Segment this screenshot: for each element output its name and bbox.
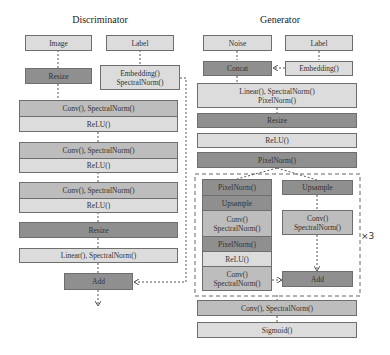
- d-linear-label: Linear(), SpectralNorm(): [61, 251, 136, 260]
- g-skip-upsample-node: Upsample: [282, 180, 353, 195]
- d-relu-1: ReLU(): [20, 116, 177, 131]
- g-res-conv1: Conv() SpectralNorm(): [203, 210, 271, 236]
- d-conv-1: Conv(), SpectralNorm(): [20, 101, 177, 116]
- g-sigmoid-node: Sigmoid(): [197, 322, 357, 338]
- g-res-conv1-line2: SpectralNorm(): [213, 224, 260, 233]
- g-label-label: Label: [310, 39, 327, 48]
- g-relu-node: ReLU(): [197, 133, 357, 148]
- g-concat-label: Concat: [227, 64, 248, 73]
- d-conv-block-3: Conv(), SpectralNorm() ReLU(): [19, 182, 178, 213]
- d-conv-block-1: Conv(), SpectralNorm() ReLU(): [19, 100, 178, 132]
- g-res-relu: ReLU(): [203, 251, 271, 266]
- g-resize-node: Resize: [197, 113, 357, 128]
- d-resize-label: Resize: [49, 72, 69, 81]
- d-image-node: Image: [25, 35, 92, 51]
- g-final-conv-label: Conv(), SpectralNorm(): [241, 304, 313, 313]
- g-add-node: Add: [282, 271, 353, 287]
- d-resize2-label: Resize: [89, 226, 109, 235]
- g-skip-conv-line2: SpectralNorm(): [294, 223, 341, 232]
- generator-title: Generator: [230, 14, 330, 25]
- d-image-label: Image: [49, 39, 68, 48]
- g-noise-label: Noise: [229, 39, 247, 48]
- d-embedding-node: Embedding() SpectralNorm(): [100, 65, 180, 90]
- g-concat-node: Concat: [203, 61, 272, 76]
- g-skip-upsample-label: Upsample: [302, 183, 332, 192]
- g-label-node: Label: [285, 35, 353, 51]
- g-final-conv-node: Conv(), SpectralNorm(): [197, 300, 357, 316]
- d-embedding-line1: Embedding(): [120, 69, 160, 78]
- d-conv-block-2: Conv(), SpectralNorm() ReLU(): [19, 142, 178, 173]
- g-linear-line2: PixelNorm(): [258, 96, 296, 105]
- d-relu-2: ReLU(): [20, 158, 177, 172]
- g-pixelnorm-label: PixelNorm(): [258, 156, 296, 165]
- g-add-label: Add: [311, 275, 324, 284]
- g-relu-label: ReLU(): [265, 136, 288, 145]
- d-embedding-line2: SpectralNorm(): [116, 78, 163, 87]
- d-resize2-node: Resize: [19, 222, 178, 238]
- g-res-pixelnorm2: PixelNorm(): [203, 236, 271, 251]
- g-res-pixelnorm1: PixelNorm(): [203, 180, 271, 195]
- g-linear-line1: Linear(), SpectralNorm(): [239, 87, 314, 96]
- d-resize-node: Resize: [25, 68, 92, 84]
- g-res-conv2-line1: Conv(): [226, 270, 247, 279]
- g-res-conv2-line2: SpectralNorm(): [213, 279, 260, 288]
- d-linear-node: Linear(), SpectralNorm(): [19, 248, 178, 263]
- g-residual-main-path: PixelNorm() Upsample Conv() SpectralNorm…: [202, 179, 272, 291]
- repeat-count-label: ×3: [361, 231, 374, 241]
- g-res-conv2: Conv() SpectralNorm(): [203, 266, 271, 290]
- g-linear-node: Linear(), SpectralNorm() PixelNorm(): [197, 83, 357, 108]
- d-relu-3: ReLU(): [20, 198, 177, 212]
- g-skip-conv-line1: Conv(): [307, 214, 328, 223]
- g-noise-node: Noise: [203, 35, 272, 51]
- d-add-node: Add: [64, 273, 133, 290]
- d-label-node: Label: [106, 35, 174, 51]
- d-conv-3: Conv(), SpectralNorm(): [20, 183, 177, 198]
- g-embedding-label: Embedding(): [299, 64, 339, 73]
- g-embedding-node: Embedding(): [285, 61, 353, 76]
- d-label-label: Label: [131, 39, 148, 48]
- g-res-conv1-line1: Conv(): [226, 215, 247, 224]
- discriminator-title: Discriminator: [40, 14, 160, 25]
- g-res-upsample: Upsample: [203, 195, 271, 210]
- g-skip-conv-node: Conv() SpectralNorm(): [282, 210, 353, 235]
- g-pixelnorm-node: PixelNorm(): [197, 152, 357, 168]
- d-conv-2: Conv(), SpectralNorm(): [20, 143, 177, 158]
- g-resize-label: Resize: [267, 116, 287, 125]
- d-add-label: Add: [92, 277, 105, 286]
- g-sigmoid-label: Sigmoid(): [262, 326, 292, 335]
